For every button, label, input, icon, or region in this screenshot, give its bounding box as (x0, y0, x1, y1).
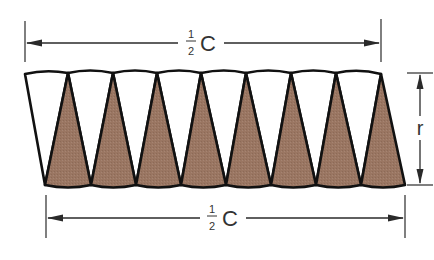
arrow-left-icon (26, 40, 42, 47)
top-dimension-symbol: C (200, 31, 216, 56)
arrow-right-icon (388, 215, 404, 222)
bottom-dimension: 1 2 C (46, 195, 405, 238)
arrow-down-icon (417, 169, 424, 184)
sector-strip (25, 71, 405, 188)
arrow-up-icon (417, 74, 424, 89)
height-dimension: r (407, 73, 433, 185)
top-dimension: 1 2 C (25, 19, 381, 62)
top-fraction-denominator: 2 (188, 45, 194, 57)
top-fraction-numerator: 1 (188, 28, 194, 40)
arrow-left-icon (47, 215, 63, 222)
bottom-dimension-symbol: C (222, 206, 238, 231)
bottom-fraction-numerator: 1 (209, 203, 215, 215)
height-symbol: r (417, 117, 424, 139)
arrow-right-icon (364, 40, 380, 47)
sector-diagram: 1 2 C r (0, 0, 434, 260)
bottom-fraction-denominator: 2 (209, 220, 215, 232)
